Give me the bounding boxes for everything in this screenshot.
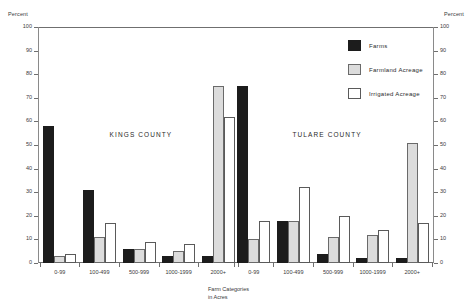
legend-swatch-farms-icon — [348, 40, 361, 51]
y-axis-tick-left-80 — [34, 74, 38, 75]
y-axis-ticklabel-right-50: 50 — [440, 142, 446, 148]
x-axis-label-100-499: 100-499 — [283, 269, 303, 275]
bar — [173, 251, 184, 263]
y-axis-tick-left-30 — [34, 192, 38, 193]
legend-item-irrigated-acreage: Irrigated Acreage — [348, 88, 423, 99]
y-axis-unit-left: Percent — [8, 11, 28, 17]
bar — [213, 86, 224, 263]
y-axis-ticklabel-left-80: 80 — [26, 71, 32, 77]
x-axis-label-2000-: 2000+ — [404, 269, 419, 275]
bar-group — [121, 27, 157, 263]
bar — [248, 239, 259, 263]
y-axis-ticklabel-left-0: 0 — [29, 260, 32, 266]
y-axis-tick-right-10 — [434, 239, 438, 240]
y-axis-left-spine — [38, 27, 39, 263]
bar — [356, 258, 367, 263]
bar — [237, 86, 248, 263]
bar — [378, 230, 389, 263]
bar — [145, 242, 156, 263]
x-axis-label-0-99: 0-99 — [248, 269, 259, 275]
y-axis-ticklabel-right-10: 10 — [440, 236, 446, 242]
x-axis-caption: Farm Categories in Acres — [208, 286, 249, 301]
legend: Farms Farmland Acreage Irrigated Acreage — [348, 40, 423, 112]
y-axis-ticklabel-left-90: 90 — [26, 48, 32, 54]
y-axis-tick-right-60 — [434, 121, 438, 122]
y-axis-ticklabel-left-10: 10 — [26, 236, 32, 242]
bar — [123, 249, 134, 263]
x-axis-tick — [238, 263, 239, 267]
y-axis-ticklabel-right-100: 100 — [440, 24, 449, 30]
bar-group — [81, 27, 117, 263]
bar — [83, 190, 94, 263]
y-axis-tick-right-30 — [434, 192, 438, 193]
x-axis-tick — [198, 263, 199, 267]
bar — [418, 223, 429, 263]
x-axis-label-100-499: 100-499 — [89, 269, 109, 275]
y-axis-tick-left-40 — [34, 169, 38, 170]
y-axis-ticklabel-right-20: 20 — [440, 213, 446, 219]
x-axis-caption-line-1: Farm Categories — [208, 286, 249, 294]
bar — [184, 244, 195, 263]
x-axis-tick — [119, 263, 120, 267]
legend-swatch-farmland-icon — [348, 64, 361, 75]
bar — [396, 258, 407, 263]
y-axis-ticklabel-right-70: 70 — [440, 95, 446, 101]
y-axis-ticklabel-left-30: 30 — [26, 189, 32, 195]
x-axis-tick — [313, 263, 314, 267]
y-axis-ticklabel-left-60: 60 — [26, 118, 32, 124]
bar-group — [200, 27, 236, 263]
y-axis-ticklabel-left-50: 50 — [26, 142, 32, 148]
bar — [277, 221, 288, 263]
bar — [65, 254, 76, 263]
y-axis-ticklabel-right-0: 0 — [440, 260, 443, 266]
bar — [202, 256, 213, 263]
y-axis-tick-right-70 — [434, 98, 438, 99]
y-axis-tick-left-60 — [34, 121, 38, 122]
x-axis-tick — [353, 263, 354, 267]
legend-label-farmland-acreage: Farmland Acreage — [369, 67, 423, 73]
x-axis-tick — [159, 263, 160, 267]
y-axis-tick-right-40 — [434, 169, 438, 170]
y-axis-tick-left-100 — [34, 27, 38, 28]
x-axis-tick — [273, 263, 274, 267]
y-axis-tick-left-70 — [34, 98, 38, 99]
y-axis-tick-left-10 — [34, 239, 38, 240]
y-axis-ticklabel-right-80: 80 — [440, 71, 446, 77]
bar — [328, 237, 339, 263]
y-axis-tick-left-90 — [34, 51, 38, 52]
bar — [54, 256, 65, 263]
legend-item-farmland-acreage: Farmland Acreage — [348, 64, 423, 75]
bar-group — [42, 27, 78, 263]
y-axis-tick-left-0 — [34, 263, 38, 264]
bar-group — [275, 27, 311, 263]
bar-group — [236, 27, 272, 263]
x-axis-label-0-99: 0-99 — [54, 269, 65, 275]
bar — [134, 249, 145, 263]
bar — [105, 223, 116, 263]
legend-item-farms: Farms — [348, 40, 423, 51]
x-axis-label-1000-1999: 1000-1999 — [165, 269, 191, 275]
x-axis-label-500-999: 500-999 — [323, 269, 343, 275]
x-axis-caption-line-2: in Acres — [208, 294, 249, 302]
x-axis-tick — [40, 263, 41, 267]
y-axis-tick-right-50 — [434, 145, 438, 146]
legend-swatch-irrigated-icon — [348, 88, 361, 99]
y-axis-ticklabel-right-40: 40 — [440, 166, 446, 172]
y-axis-tick-right-100 — [434, 27, 438, 28]
bar — [288, 221, 299, 263]
x-axis-tick — [79, 263, 80, 267]
bar — [43, 126, 54, 263]
legend-label-irrigated-acreage: Irrigated Acreage — [369, 91, 420, 97]
x-axis-tick — [392, 263, 393, 267]
bar — [94, 237, 105, 263]
y-axis-ticklabel-right-90: 90 — [440, 48, 446, 54]
bar-group — [161, 27, 197, 263]
panel-label-tulare-county: TULARE COUNTY — [292, 131, 361, 138]
bar — [367, 235, 378, 263]
legend-label-farms: Farms — [369, 43, 388, 49]
y-axis-ticklabel-left-20: 20 — [26, 213, 32, 219]
x-axis-tick — [432, 263, 433, 267]
bar — [259, 221, 270, 263]
y-axis-ticklabel-left-40: 40 — [26, 166, 32, 172]
y-axis-tick-right-20 — [434, 216, 438, 217]
